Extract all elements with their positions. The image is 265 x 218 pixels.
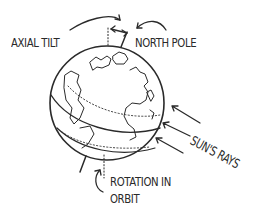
axial-tilt-label: AXIAL TILT <box>11 35 59 50</box>
tilt-angle-arrow-icon <box>111 26 127 36</box>
north-pole-pointer-icon <box>137 21 166 30</box>
earth-tilt-diagram: AXIAL TILT NORTH POLE SUN'S RAYS ROTATIO… <box>0 0 265 218</box>
north-pole-label: NORTH POLE <box>135 35 196 50</box>
globe <box>50 46 164 160</box>
axis-bottom <box>80 156 86 172</box>
rotation-arrow-icon <box>95 170 103 192</box>
rotation-label-line2: ORBIT <box>110 191 139 206</box>
rotation-label-line1: ROTATION IN <box>110 174 171 189</box>
